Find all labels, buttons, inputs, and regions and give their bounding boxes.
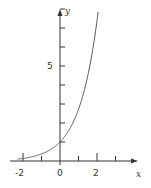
y-axis-label: y (64, 6, 71, 16)
curve-exp (17, 12, 98, 159)
x-tick-label: 2 (93, 168, 99, 178)
y-axis-arrow-icon (58, 9, 63, 16)
exponential-chart: -2 0 2 x 5 y (0, 0, 151, 188)
x-ticks (23, 153, 116, 161)
y-ticks (60, 9, 65, 142)
x-axis-arrow-icon (131, 159, 138, 164)
x-tick-label: -2 (15, 168, 24, 178)
y-tick-label: 5 (47, 61, 53, 71)
x-axis-label: x (136, 169, 141, 179)
x-tick-label: 0 (57, 168, 63, 178)
